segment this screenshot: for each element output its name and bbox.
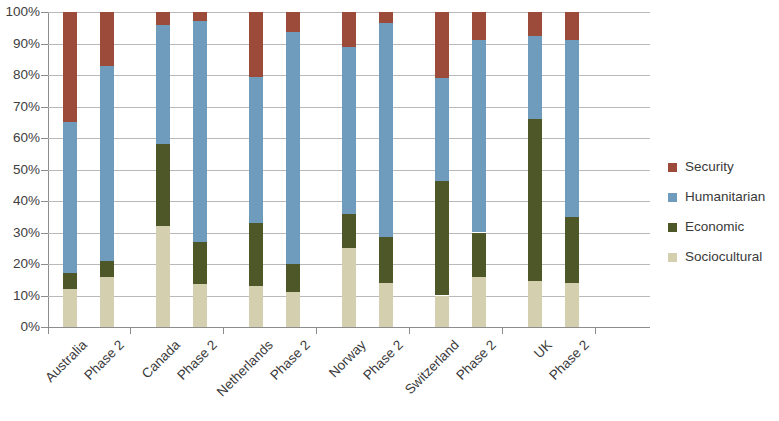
bar-segment-humanitarian[interactable] bbox=[63, 122, 77, 273]
bar-segment-sociocultural[interactable] bbox=[286, 292, 300, 327]
bar-segment-sociocultural[interactable] bbox=[379, 283, 393, 327]
x-axis-tick bbox=[130, 327, 131, 334]
plot-area bbox=[48, 12, 650, 327]
bar-segment-economic[interactable] bbox=[472, 233, 486, 277]
y-axis-tick bbox=[41, 327, 48, 328]
bar-segment-humanitarian[interactable] bbox=[435, 78, 449, 180]
bar-segment-humanitarian[interactable] bbox=[342, 47, 356, 214]
y-axis-tick bbox=[41, 75, 48, 76]
x-axis-tick-label: Australia bbox=[43, 338, 90, 385]
bar-segment-humanitarian[interactable] bbox=[472, 40, 486, 232]
bar-stack[interactable] bbox=[435, 12, 449, 327]
x-axis-baseline bbox=[48, 327, 650, 328]
bar-segment-sociocultural[interactable] bbox=[193, 284, 207, 327]
legend-item-label: Security bbox=[685, 160, 734, 174]
bar-segment-economic[interactable] bbox=[63, 273, 77, 289]
bar-segment-security[interactable] bbox=[63, 12, 77, 122]
bar-segment-sociocultural[interactable] bbox=[472, 277, 486, 327]
bar-segment-security[interactable] bbox=[286, 12, 300, 32]
bar-segment-security[interactable] bbox=[100, 12, 114, 66]
bar-segment-sociocultural[interactable] bbox=[342, 248, 356, 327]
bar-stack[interactable] bbox=[379, 12, 393, 327]
bar-stack[interactable] bbox=[286, 12, 300, 327]
bar-segment-economic[interactable] bbox=[100, 261, 114, 277]
legend-item[interactable]: Economic bbox=[668, 212, 779, 242]
bar-segment-sociocultural[interactable] bbox=[249, 286, 263, 327]
bar-stack[interactable] bbox=[63, 12, 77, 327]
y-axis-tick-label: 100% bbox=[0, 5, 40, 19]
bar-segment-sociocultural[interactable] bbox=[528, 281, 542, 327]
y-axis-tick-label: 90% bbox=[0, 37, 40, 51]
bar-stack[interactable] bbox=[472, 12, 486, 327]
bar-segment-security[interactable] bbox=[156, 12, 170, 25]
bar-segment-humanitarian[interactable] bbox=[565, 40, 579, 216]
bar-segment-security[interactable] bbox=[472, 12, 486, 40]
bar-segment-sociocultural[interactable] bbox=[565, 283, 579, 327]
bar-segment-economic[interactable] bbox=[193, 242, 207, 285]
bar-segment-humanitarian[interactable] bbox=[528, 36, 542, 119]
x-axis-tick-label: Phase 2 bbox=[361, 338, 406, 383]
y-axis-tick bbox=[41, 170, 48, 171]
bar-segment-humanitarian[interactable] bbox=[156, 25, 170, 145]
bar-segment-humanitarian[interactable] bbox=[249, 77, 263, 223]
bar-segment-economic[interactable] bbox=[342, 214, 356, 249]
bar-segment-security[interactable] bbox=[565, 12, 579, 40]
y-axis-tick bbox=[41, 264, 48, 265]
y-axis-tick bbox=[41, 138, 48, 139]
legend-item[interactable]: Security bbox=[668, 152, 779, 182]
x-axis-tick-label: Netherlands bbox=[215, 338, 276, 399]
bar-segment-security[interactable] bbox=[435, 12, 449, 78]
legend-item-label: Sociocultural bbox=[685, 250, 762, 264]
bar-segment-economic[interactable] bbox=[528, 119, 542, 281]
bar-stack[interactable] bbox=[100, 12, 114, 327]
bar-segment-economic[interactable] bbox=[379, 237, 393, 283]
bar-segment-security[interactable] bbox=[249, 12, 263, 77]
bar-segment-sociocultural[interactable] bbox=[100, 277, 114, 327]
legend-swatch-icon bbox=[668, 253, 677, 262]
x-axis-tick bbox=[502, 327, 503, 334]
legend-item-label: Economic bbox=[685, 220, 744, 234]
stacked-bar-chart: 100%90%80%70%60%50%40%30%20%10%0% Austra… bbox=[0, 0, 779, 421]
y-axis-tick bbox=[41, 44, 48, 45]
y-axis-tick bbox=[41, 296, 48, 297]
y-axis-tick-label: 60% bbox=[0, 131, 40, 145]
bar-stack[interactable] bbox=[249, 12, 263, 327]
bar-segment-humanitarian[interactable] bbox=[379, 23, 393, 237]
bar-segment-security[interactable] bbox=[342, 12, 356, 47]
bar-segment-economic[interactable] bbox=[435, 181, 449, 296]
x-axis-tick bbox=[223, 327, 224, 334]
bar-stack[interactable] bbox=[528, 12, 542, 327]
legend-item[interactable]: Humanitarian bbox=[668, 182, 779, 212]
legend-swatch-icon bbox=[668, 223, 677, 232]
y-axis-tick bbox=[41, 233, 48, 234]
y-axis-tick-label: 0% bbox=[0, 320, 40, 334]
bar-segment-economic[interactable] bbox=[286, 264, 300, 292]
x-axis-tick bbox=[409, 327, 410, 334]
bar-stack[interactable] bbox=[342, 12, 356, 327]
legend-swatch-icon bbox=[668, 163, 677, 172]
bar-segment-sociocultural[interactable] bbox=[63, 289, 77, 327]
x-axis-tick-label: UK bbox=[532, 338, 555, 361]
bar-stack[interactable] bbox=[156, 12, 170, 327]
bar-segment-sociocultural[interactable] bbox=[156, 226, 170, 327]
bar-segment-security[interactable] bbox=[528, 12, 542, 36]
bar-segment-humanitarian[interactable] bbox=[100, 66, 114, 261]
bar-segment-economic[interactable] bbox=[565, 217, 579, 283]
x-axis-tick-label: Phase 2 bbox=[268, 338, 313, 383]
bar-stack[interactable] bbox=[565, 12, 579, 327]
bar-segment-economic[interactable] bbox=[249, 223, 263, 286]
legend-item[interactable]: Sociocultural bbox=[668, 242, 779, 272]
bar-segment-humanitarian[interactable] bbox=[286, 32, 300, 264]
bar-segment-security[interactable] bbox=[379, 12, 393, 23]
x-axis-tick-label: Switzerland bbox=[403, 338, 462, 397]
bar-segment-security[interactable] bbox=[193, 12, 207, 21]
y-axis-tick bbox=[41, 12, 48, 13]
bar-segment-humanitarian[interactable] bbox=[193, 21, 207, 242]
x-axis-tick bbox=[316, 327, 317, 334]
bar-segment-sociocultural[interactable] bbox=[435, 296, 449, 328]
legend-swatch-icon bbox=[668, 193, 677, 202]
bar-stack[interactable] bbox=[193, 12, 207, 327]
bar-segment-economic[interactable] bbox=[156, 144, 170, 226]
x-axis-tick bbox=[595, 327, 596, 334]
y-axis-tick bbox=[41, 201, 48, 202]
